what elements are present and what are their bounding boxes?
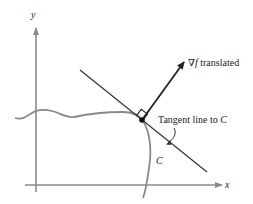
tangent-gradient-diagram: y x ∇f translated Tangent line to C C [0, 0, 253, 204]
gradient-text: translated [198, 57, 239, 68]
y-axis-label: y [30, 9, 36, 20]
tangency-point [139, 117, 145, 123]
tangent-text: Tangent line to [158, 114, 220, 125]
curve-label: C [156, 155, 163, 166]
tangent-label: Tangent line to C [158, 114, 227, 125]
tangent-c: C [220, 114, 227, 125]
nabla-symbol: ∇ [188, 57, 195, 68]
gradient-vector [142, 62, 184, 120]
gradient-label: ∇f translated [188, 57, 239, 68]
x-axis-label: x [224, 179, 230, 190]
tangent-pointer [168, 128, 175, 143]
